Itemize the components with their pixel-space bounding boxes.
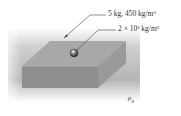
- fluid-density-label: ρg: [128, 95, 134, 103]
- fluid-density-subscript: g: [131, 98, 134, 103]
- block-front-face: [22, 66, 98, 88]
- sphere-label: 2 × 10³ kg/m³: [118, 25, 159, 33]
- diagram: 5 kg, 450 kg/m³ 2 × 10³ kg/m³ ρg: [0, 0, 181, 116]
- block-label: 5 kg, 450 kg/m³: [108, 10, 156, 18]
